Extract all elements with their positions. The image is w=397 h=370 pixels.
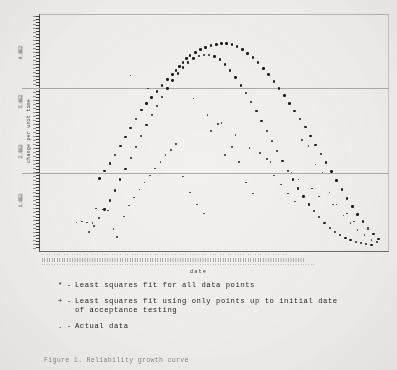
- data-point: [161, 96, 163, 98]
- figure-container: 4.0E23.0E22.0E21.0E2 change per unit tim…: [0, 0, 397, 370]
- data-point: [86, 222, 88, 224]
- data-point: [250, 101, 252, 103]
- data-point: [92, 222, 94, 224]
- legend-marker-icon: *: [58, 281, 67, 290]
- data-point: [196, 204, 198, 206]
- data-point: [182, 66, 184, 68]
- data-point: [165, 154, 167, 156]
- data-point: [149, 175, 151, 177]
- data-point: [266, 130, 268, 132]
- data-point: [257, 61, 260, 64]
- x-axis-tick-row-1: · ·· ··· ·· ···· ·· ··· ··· ···· ·· ··· …: [41, 253, 388, 257]
- data-point: [124, 168, 126, 170]
- data-point: [323, 222, 325, 224]
- y-axis-tick-label: 4.0E2: [18, 45, 23, 59]
- data-point: [360, 242, 362, 244]
- legend-label: Actual data: [75, 322, 129, 330]
- data-point: [224, 154, 226, 156]
- legend-entry: *-Least squares fit for all data points: [58, 281, 388, 290]
- data-point: [376, 241, 378, 243]
- data-point: [204, 46, 207, 49]
- data-point: [281, 160, 283, 162]
- figure-caption: Figure 1. Reliability growth curve: [44, 357, 394, 364]
- data-point: [270, 161, 272, 163]
- data-point: [302, 195, 304, 197]
- data-point: [320, 153, 323, 156]
- legend-dash: -: [67, 281, 75, 290]
- data-point: [364, 234, 366, 236]
- data-point: [182, 61, 185, 64]
- data-point: [150, 96, 153, 99]
- data-point: [189, 192, 191, 194]
- data-point: [322, 172, 324, 174]
- data-point: [245, 92, 247, 94]
- data-point: [123, 216, 125, 218]
- data-point: [372, 233, 375, 236]
- data-point: [128, 205, 130, 207]
- data-point: [229, 69, 231, 71]
- data-point: [130, 157, 132, 159]
- data-point: [266, 158, 268, 160]
- data-point: [370, 244, 372, 246]
- legend-marker-icon: .: [58, 322, 67, 331]
- data-point: [283, 94, 286, 97]
- data-point: [217, 123, 219, 125]
- data-point: [107, 210, 109, 212]
- data-point: [208, 54, 210, 56]
- data-point: [339, 234, 341, 236]
- data-point: [292, 178, 294, 180]
- data-point: [210, 44, 213, 47]
- data-point: [341, 188, 344, 191]
- data-point: [252, 56, 255, 59]
- data-point: [102, 209, 104, 211]
- legend-label: Least squares fit using only points up t…: [75, 297, 338, 305]
- data-point: [304, 126, 307, 129]
- legend-dash: -: [67, 297, 75, 306]
- data-point: [116, 236, 118, 238]
- data-point: [203, 54, 205, 56]
- data-point: [210, 130, 212, 132]
- data-point: [156, 90, 159, 93]
- data-point: [166, 78, 169, 81]
- data-point: [267, 73, 270, 76]
- data-point: [308, 203, 310, 205]
- data-point: [255, 110, 257, 112]
- data-point: [273, 175, 275, 177]
- data-point: [95, 208, 97, 210]
- data-point: [119, 145, 122, 148]
- data-point: [185, 57, 188, 60]
- data-point: [139, 189, 141, 191]
- data-point: [135, 146, 137, 148]
- data-point: [249, 147, 251, 149]
- data-point: [198, 55, 200, 57]
- data-point: [343, 215, 345, 217]
- data-point: [288, 102, 291, 105]
- data-point: [313, 210, 315, 212]
- y-axis-tick-label: 2.0E2: [18, 144, 23, 158]
- data-point: [335, 179, 338, 182]
- data-point: [93, 225, 95, 227]
- data-point: [225, 42, 228, 45]
- data-point: [171, 73, 174, 76]
- plot-data-area: [40, 14, 389, 252]
- y-axis-title: change per unit time: [26, 56, 32, 206]
- data-point: [329, 192, 331, 194]
- data-point: [166, 87, 168, 89]
- data-point: [299, 118, 302, 121]
- data-point: [238, 161, 240, 163]
- data-point: [215, 43, 218, 46]
- data-point: [298, 179, 300, 181]
- data-point: [109, 199, 111, 201]
- data-point: [235, 134, 237, 136]
- data-point: [182, 176, 184, 178]
- data-point: [76, 222, 78, 224]
- data-point: [297, 187, 299, 189]
- data-point: [315, 164, 317, 166]
- data-point: [187, 61, 189, 63]
- legend-entry: .-Actual data: [58, 322, 388, 331]
- legend-entry: +-Least squares fit using only points up…: [58, 297, 388, 315]
- data-point: [161, 84, 164, 87]
- data-point: [194, 51, 197, 54]
- data-point: [356, 213, 359, 216]
- data-point: [246, 52, 249, 55]
